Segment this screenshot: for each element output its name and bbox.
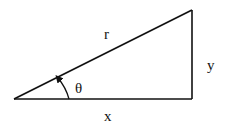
triangle-graphic <box>0 0 228 126</box>
adjacent-label: x <box>104 109 112 124</box>
right-triangle-diagram: r y θ x <box>0 0 228 126</box>
hypotenuse-label: r <box>104 27 109 42</box>
angle-label: θ <box>75 81 82 96</box>
angle-arc-arrow <box>58 78 69 99</box>
hypotenuse-line <box>14 10 192 99</box>
opposite-label: y <box>207 58 215 73</box>
